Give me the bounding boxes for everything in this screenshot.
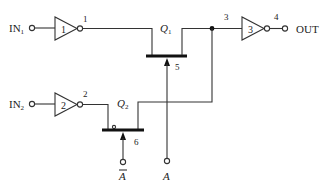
q2-label: Q2 — [117, 97, 129, 111]
inverter-1-label: 1 — [61, 24, 66, 35]
out-label: OUT — [296, 23, 319, 35]
in1-terminal — [29, 25, 34, 30]
node-1-label: 1 — [83, 14, 88, 24]
a-bar-label: A — [118, 170, 126, 182]
in2-terminal — [29, 101, 34, 106]
a-terminal — [164, 158, 169, 163]
out-terminal — [282, 26, 287, 31]
q2-source-wire — [83, 105, 108, 130]
in1-label: IN1 — [9, 22, 25, 36]
node-2-label: 2 — [83, 89, 88, 99]
q2-marker-dot — [112, 125, 115, 128]
node-3-label: 3 — [224, 12, 229, 22]
inverter-2-label: 2 — [61, 100, 66, 111]
node-6-label: 6 — [134, 137, 139, 147]
node-4-label: 4 — [274, 12, 279, 22]
inverter-2-icon — [55, 93, 77, 116]
circuit-diagram: IN1 1 1 Q1 5 A 3 3 4 OUT IN2 2 2 Q2 6 A — [0, 0, 328, 190]
inverter-1-icon — [55, 17, 77, 40]
node-5-label: 5 — [175, 62, 180, 72]
q1-source-wire — [83, 29, 152, 56]
in2-label: IN2 — [9, 98, 25, 112]
a-label: A — [162, 170, 170, 182]
q1-label: Q1 — [160, 22, 172, 36]
feedback-wire — [138, 29, 212, 130]
inverter-3-icon — [242, 17, 264, 40]
inverter-3-label: 3 — [248, 24, 253, 35]
a-bar-terminal — [120, 159, 125, 164]
